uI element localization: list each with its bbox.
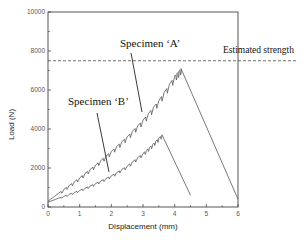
x-tick-label: 3 xyxy=(141,210,145,217)
x-axis-label: Displacement (mm) xyxy=(108,222,178,231)
y-tick-label: 2000 xyxy=(31,164,46,171)
x-tick-label: 5 xyxy=(205,210,209,217)
specimen-b-leader xyxy=(97,113,109,172)
y-tick-label: 4000 xyxy=(31,125,46,132)
x-tick-label: 6 xyxy=(236,210,240,217)
plot-area: 01234560200040006000800010000Displacemen… xyxy=(7,8,298,231)
specimen-b-label: Specimen ‘B’ xyxy=(68,95,129,107)
x-tick-label: 2 xyxy=(110,210,114,217)
x-tick-label: 1 xyxy=(78,210,82,217)
x-tick-label: 4 xyxy=(173,210,177,217)
y-tick-label: 0 xyxy=(41,203,45,210)
series-specimen-a xyxy=(48,69,238,202)
y-tick-label: 6000 xyxy=(31,86,46,93)
x-tick-label: 0 xyxy=(46,210,50,217)
y-tick-label: 8000 xyxy=(31,47,46,54)
load-displacement-chart: 01234560200040006000800010000Displacemen… xyxy=(0,0,307,244)
estimated-strength-label: Estimated strength xyxy=(223,45,294,55)
y-tick-label: 10000 xyxy=(27,8,45,15)
specimen-a-leader xyxy=(131,53,142,112)
specimen-a-label: Specimen ‘A’ xyxy=(120,37,180,49)
y-axis-label: Load (N) xyxy=(7,109,16,140)
